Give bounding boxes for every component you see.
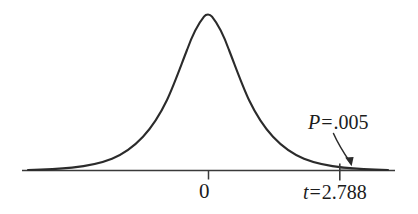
t-distribution-figure: 0 t=2.788 P=.005 <box>0 0 418 214</box>
axis-label-zero-text: 0 <box>199 179 210 203</box>
bell-curve <box>28 15 388 171</box>
t-equals-sign: = <box>309 181 322 203</box>
t-critical-number: 2.788 <box>322 181 367 203</box>
p-equals-sign: = <box>320 111 333 133</box>
axis-label-t-critical: t=2.788 <box>303 182 367 202</box>
p-variable-symbol: P <box>308 111 320 133</box>
p-value-leader-arrow <box>334 134 354 167</box>
p-value-number: .005 <box>334 111 369 133</box>
axis-label-zero: 0 <box>199 181 210 202</box>
p-value-annotation-label: P=.005 <box>308 112 369 132</box>
t-variable-symbol: t <box>303 181 309 203</box>
